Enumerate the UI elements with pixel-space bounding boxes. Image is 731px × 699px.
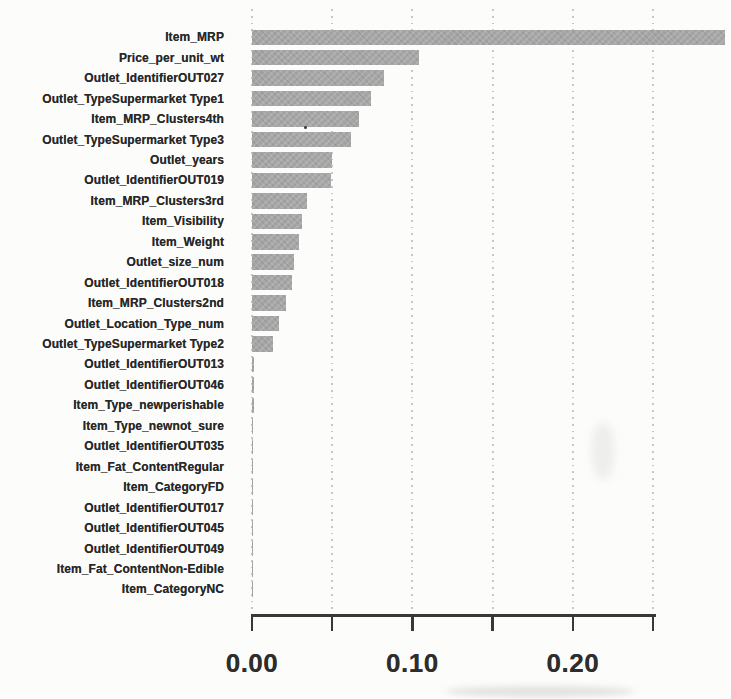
gridline-vertical [572, 9, 574, 612]
x-axis-tick [491, 614, 494, 631]
x-axis-line [251, 614, 656, 617]
bar [252, 50, 419, 66]
x-axis-tick [251, 614, 254, 631]
bar [252, 459, 253, 475]
bar [252, 336, 273, 352]
bar [252, 132, 351, 148]
bar [252, 234, 299, 250]
bar [252, 193, 307, 209]
category-label: Item_Fat_ContentRegular [0, 460, 224, 474]
category-label: Outlet_IdentifierOUT013 [0, 357, 224, 371]
category-label: Item_CategoryFD [0, 480, 224, 494]
bar [252, 295, 286, 311]
category-label: Outlet_IdentifierOUT019 [0, 173, 224, 187]
gridline-vertical [492, 9, 494, 612]
bar [252, 91, 371, 107]
x-axis-tick [331, 614, 334, 631]
category-label: Outlet_IdentifierOUT018 [0, 276, 224, 290]
category-label: Item_Weight [0, 235, 224, 249]
bar [252, 377, 254, 393]
bar [252, 152, 332, 168]
x-axis-tick [652, 614, 655, 631]
gridline-vertical [652, 9, 654, 612]
category-label: Outlet_IdentifierOUT049 [0, 542, 224, 556]
bar [252, 111, 359, 127]
category-label: Price_per_unit_wt [0, 51, 224, 65]
x-axis-tick [411, 614, 414, 631]
bar [252, 214, 302, 230]
bar [252, 254, 294, 270]
category-label: Item_MRP_Clusters4th [0, 112, 224, 126]
category-label: Item_Type_newnot_sure [0, 419, 224, 433]
x-axis-tick-label: 0.10 [342, 648, 482, 679]
category-label: Outlet_TypeSupermarket Type2 [0, 337, 224, 351]
bar [252, 439, 253, 455]
category-label: Outlet_size_num [0, 255, 224, 269]
category-label: Item_MRP [0, 30, 224, 44]
category-label: Outlet_TypeSupermarket Type3 [0, 133, 224, 147]
bar [252, 357, 254, 373]
scan-speck-artifact [304, 126, 307, 129]
bar [252, 70, 384, 86]
category-label: Item_MRP_Clusters3rd [0, 194, 224, 208]
category-label: Outlet_IdentifierOUT046 [0, 378, 224, 392]
category-label: Outlet_TypeSupermarket Type1 [0, 92, 224, 106]
category-label: Outlet_IdentifierOUT035 [0, 439, 224, 453]
x-axis-tick-label: 0.20 [503, 648, 643, 679]
category-label: Item_Type_newperishable [0, 398, 224, 412]
bar [252, 398, 254, 414]
category-label: Item_CategoryNC [0, 582, 224, 596]
category-label: Outlet_IdentifierOUT045 [0, 521, 224, 535]
gridline-vertical [411, 9, 413, 612]
category-label: Outlet_Location_Type_num [0, 317, 224, 331]
category-label: Item_Fat_ContentNon-Edible [0, 562, 224, 576]
bar [252, 30, 725, 46]
category-label: Item_Visibility [0, 214, 224, 228]
bar [252, 173, 331, 189]
bar [252, 418, 253, 434]
scan-smudge-artifact [591, 422, 615, 480]
x-axis-tick-label: 0.00 [182, 648, 322, 679]
bar [252, 316, 279, 332]
bar [252, 275, 292, 291]
category-label: Item_MRP_Clusters2nd [0, 296, 224, 310]
category-label: Outlet_IdentifierOUT017 [0, 501, 224, 515]
scanned-feature-importance-chart: Item_MRPPrice_per_unit_wtOutlet_Identifi… [0, 0, 731, 699]
category-label: Outlet_years [0, 153, 224, 167]
category-label: Outlet_IdentifierOUT027 [0, 71, 224, 85]
scan-smudge-artifact [445, 686, 635, 697]
x-axis-tick [572, 614, 575, 631]
